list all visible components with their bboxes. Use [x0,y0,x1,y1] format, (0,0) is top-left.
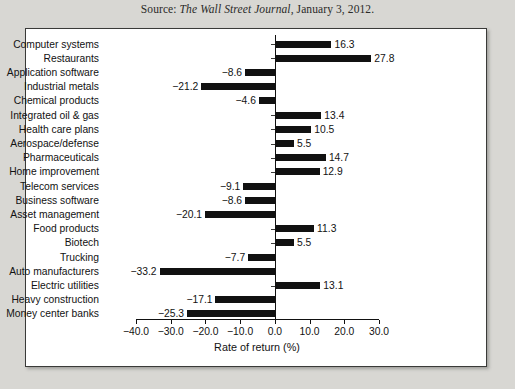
bar-value-label: −9.1 [220,182,240,192]
category-label: Application software [0,68,99,78]
x-axis-tick [379,320,380,324]
category-label: Asset management [0,210,99,220]
bar-value-label: 11.3 [317,224,336,234]
source-date: , January 3, 2012. [291,3,375,15]
bar-value-label: 13.1 [323,281,343,291]
bar [205,211,275,218]
category-label: Computer systems [0,40,99,50]
category-label: Trucking [0,253,99,263]
bar-value-label: −4.6 [236,96,256,106]
bar-value-label: −17.1 [186,295,212,305]
bar [275,225,314,232]
bar-value-label: 5.5 [297,139,311,149]
category-label: Aerospace/defense [0,139,99,149]
bar-value-label: 5.5 [297,238,311,248]
bar [245,69,275,76]
zero-axis-line [275,35,276,320]
x-axis-tick [310,320,311,324]
bar [275,282,320,289]
bar-value-label: 27.8 [374,54,394,64]
bar [275,140,294,147]
category-label: Integrated oil & gas [0,111,99,121]
bar-value-label: 13.4 [324,111,344,121]
chart-panel: Rate of return (%) Computer systems16.3R… [25,28,487,367]
bar-value-label: −21.2 [172,82,198,92]
bar-value-label: −33.2 [131,267,157,277]
bar [275,168,320,175]
source-caption: Source: The Wall Street Journal, January… [0,3,515,15]
category-label: Pharmaceuticals [0,153,99,163]
category-label: Business software [0,196,99,206]
bar-value-label: 12.9 [323,167,343,177]
bar-value-label: −20.1 [176,210,202,220]
bar [275,112,322,119]
bar [259,97,275,104]
x-axis-tick [136,320,137,324]
bar-value-label: 10.5 [314,125,334,135]
x-axis-tick [275,320,276,324]
x-axis-tick [171,320,172,324]
category-label: Heavy construction [0,295,99,305]
category-label: Money center banks [0,309,99,319]
category-label: Health care plans [0,125,99,135]
bar-value-label: 16.3 [334,40,354,50]
category-label: Restaurants [0,54,99,64]
bar-value-label: −7.7 [225,253,245,263]
bar [160,268,275,275]
bar [275,41,332,48]
bar [275,239,294,246]
category-label: Telecom services [0,182,99,192]
x-axis-title: Rate of return (%) [26,341,488,353]
bar-value-label: −8.6 [222,196,242,206]
bar-value-label: −8.6 [222,68,242,78]
category-label: Industrial metals [0,82,99,92]
bar [248,254,275,261]
bar [243,183,275,190]
category-label: Electric utilities [0,281,99,291]
x-axis-tick [344,320,345,324]
category-label: Chemical products [0,96,99,106]
category-label: Biotech [0,238,99,248]
category-label: Home improvement [0,167,99,177]
bar-value-label: −25.3 [158,309,184,319]
bar [275,154,326,161]
category-label: Auto manufacturers [0,267,99,277]
source-publication: The Wall Street Journal [180,3,291,15]
x-axis-tick [240,320,241,324]
bar [245,197,275,204]
source-prefix: Source: [141,3,177,15]
bar [275,55,372,62]
x-axis-tick [205,320,206,324]
bar-value-label: 14.7 [329,153,349,163]
bar [201,83,275,90]
plot-area: Rate of return (%) Computer systems16.3R… [26,29,488,368]
bar [275,126,311,133]
category-label: Food products [0,224,99,234]
bar [215,296,274,303]
bar [187,310,275,317]
x-axis-tick-label: 30.0 [356,326,402,337]
